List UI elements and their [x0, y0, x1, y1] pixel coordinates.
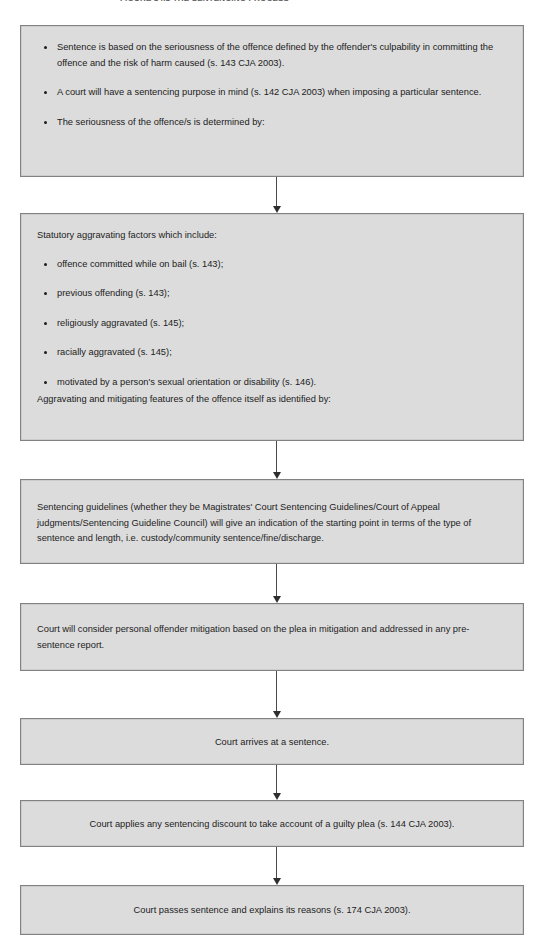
connector-4-to-5: [271, 671, 282, 718]
connector-line: [276, 441, 277, 472]
flow-step-5-content: Court arrives at a sentence.: [21, 719, 523, 767]
flow-step-2-content: Statutory aggravating factors which incl…: [21, 214, 523, 420]
connector-line: [276, 847, 277, 878]
connector-line: [276, 177, 277, 206]
list-item: motivated by a person's sexual orientati…: [37, 375, 507, 391]
arrowhead-icon: [273, 472, 281, 479]
flow-step-6: Court applies any sentencing discount to…: [20, 800, 524, 847]
flow-step-4-text: Court will consider personal offender mi…: [37, 622, 507, 653]
flow-step-3-content: Sentencing guidelines (whether they be M…: [21, 480, 523, 559]
list-item: offence committed while on bail (s. 143)…: [37, 257, 507, 273]
arrowhead-icon: [273, 711, 281, 718]
list-item: racially aggravated (s. 145);: [37, 345, 507, 361]
list-item: Sentence is based on the seriousness of …: [37, 40, 507, 71]
flow-step-1-bullet-list: Sentence is based on the seriousness of …: [37, 40, 507, 130]
flow-step-1: Sentence is based on the seriousness of …: [20, 25, 524, 177]
flow-step-5: Court arrives at a sentence.: [20, 718, 524, 765]
arrowhead-icon: [273, 596, 281, 603]
flow-step-6-content: Court applies any sentencing discount to…: [21, 801, 523, 849]
connector-3-to-4: [271, 564, 282, 603]
figure-caption: FIGURE 14.1 THE SENTENCING PROCESS: [120, 0, 420, 3]
flow-step-2: Statutory aggravating factors which incl…: [20, 213, 524, 441]
connector-1-to-2: [271, 177, 282, 213]
flow-step-6-text: Court applies any sentencing discount to…: [37, 817, 507, 833]
flow-step-2-lead: Statutory aggravating factors which incl…: [37, 228, 507, 244]
connector-2-to-3: [271, 441, 282, 479]
connector-line: [276, 765, 277, 793]
list-item: A court will have a sentencing purpose i…: [37, 85, 507, 101]
connector-5-to-6: [271, 765, 282, 800]
arrowhead-icon: [273, 793, 281, 800]
flow-step-4-content: Court will consider personal offender mi…: [21, 604, 523, 665]
list-item: previous offending (s. 143);: [37, 286, 507, 302]
flow-step-7: Court passes sentence and explains its r…: [20, 885, 524, 935]
connector-line: [276, 564, 277, 596]
arrowhead-icon: [273, 878, 281, 885]
flow-step-2-bullet-list: offence committed while on bail (s. 143)…: [37, 257, 507, 391]
flow-step-2-tail: Aggravating and mitigating features of t…: [37, 392, 507, 408]
flow-step-4: Court will consider personal offender mi…: [20, 603, 524, 671]
flow-step-3: Sentencing guidelines (whether they be M…: [20, 479, 524, 564]
list-item: The seriousness of the offence/s is dete…: [37, 115, 507, 131]
connector-6-to-7: [271, 847, 282, 885]
list-item: religiously aggravated (s. 145);: [37, 316, 507, 332]
flow-step-5-text: Court arrives at a sentence.: [37, 735, 507, 751]
flow-step-7-text: Court passes sentence and explains its r…: [37, 903, 507, 919]
flow-step-3-text: Sentencing guidelines (whether they be M…: [37, 500, 507, 547]
flow-step-7-content: Court passes sentence and explains its r…: [21, 886, 523, 936]
connector-line: [276, 671, 277, 711]
flow-step-1-content: Sentence is based on the seriousness of …: [21, 26, 523, 142]
arrowhead-icon: [273, 206, 281, 213]
